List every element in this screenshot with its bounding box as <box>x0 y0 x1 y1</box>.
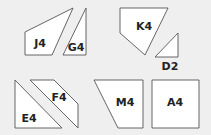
piece-d2-shape <box>155 33 178 57</box>
piece-m4: M4 <box>94 80 143 128</box>
piece-m4-label: M4 <box>116 96 135 109</box>
piece-a4-label: A4 <box>167 96 184 109</box>
piece-d2: D2 <box>155 33 178 73</box>
piece-k4: K4 <box>120 8 168 55</box>
piece-g4-label: G4 <box>68 41 85 54</box>
piece-j4: J4 <box>25 8 73 55</box>
piece-j4-label: J4 <box>33 37 46 50</box>
piece-e4-label: E4 <box>21 112 37 125</box>
piece-a4: A4 <box>152 80 199 128</box>
piece-j4-shape <box>25 8 73 55</box>
piece-d2-label: D2 <box>162 60 179 73</box>
pieces-canvas: J4 G4 K4 D2 E4 F4 M4 A4 <box>0 0 211 135</box>
piece-f4-label: F4 <box>51 91 67 104</box>
tangram-pieces-diagram: J4 G4 K4 D2 E4 F4 M4 A4 <box>0 0 211 135</box>
piece-k4-label: K4 <box>136 20 153 33</box>
